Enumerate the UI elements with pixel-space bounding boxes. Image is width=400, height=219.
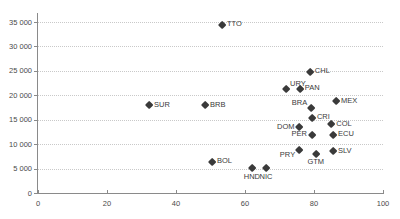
y-tick-label: 30 000 <box>0 42 32 51</box>
data-point-label: PAN <box>305 84 320 92</box>
y-tick-label: 25 000 <box>0 66 32 75</box>
data-point-label: BRB <box>210 101 225 109</box>
x-tick-label: 0 <box>23 199 53 208</box>
data-point-label: PRY <box>280 151 295 159</box>
data-point-label: TTO <box>227 20 242 28</box>
y-tick-label: 20 000 <box>0 91 32 100</box>
data-point-label: ECU <box>338 130 354 138</box>
data-point-label: SUR <box>154 101 170 109</box>
data-point-label: MEX <box>341 97 357 105</box>
data-point-label: CHL <box>315 67 330 75</box>
y-tick-label: 0 <box>0 189 32 198</box>
x-tick-label: 100 <box>368 199 398 208</box>
y-tick-label: 10 000 <box>0 140 32 149</box>
data-point-label: NIC <box>260 173 273 181</box>
y-tick-label: 35 000 <box>0 18 32 27</box>
data-point-label: HND <box>244 173 260 181</box>
data-point-label: COL <box>336 120 351 128</box>
data-point-label: CRI <box>317 113 330 121</box>
x-tick-label: 20 <box>92 199 122 208</box>
y-tick-label: 15 000 <box>0 115 32 124</box>
scatter-chart: 05 00010 00015 00020 00025 00030 00035 0… <box>0 0 400 219</box>
data-point-label: SLV <box>338 147 352 155</box>
y-tick-label: 5 000 <box>0 164 32 173</box>
x-tick-mark <box>383 190 384 194</box>
x-tick-label: 80 <box>299 199 329 208</box>
x-tick-label: 60 <box>230 199 260 208</box>
x-tick-label: 40 <box>161 199 191 208</box>
x-axis-line <box>38 193 384 194</box>
data-point-label: BRA <box>292 99 307 107</box>
data-point-label: PER <box>292 130 307 138</box>
data-point-label: BOL <box>217 157 232 165</box>
data-point-label: GTM <box>307 158 324 166</box>
